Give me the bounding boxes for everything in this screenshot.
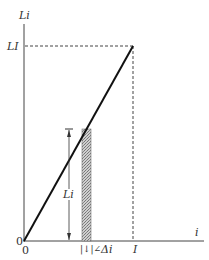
y-axis-label: Li: [19, 10, 30, 21]
x-tick-label: I: [133, 244, 137, 255]
strip-width-label: Δi: [101, 244, 112, 255]
strip-height-label: Li: [63, 189, 74, 200]
strip-width-prefix: |↓|∠: [80, 245, 101, 254]
height-arrow: [65, 129, 73, 240]
diagram-canvas: [0, 0, 209, 260]
shaded-strip: [82, 129, 91, 241]
origin-x-label: 0: [22, 245, 29, 256]
x-axis-label: i: [195, 227, 199, 238]
flux-line: [24, 46, 133, 241]
y-tick-label: LI: [7, 41, 19, 52]
